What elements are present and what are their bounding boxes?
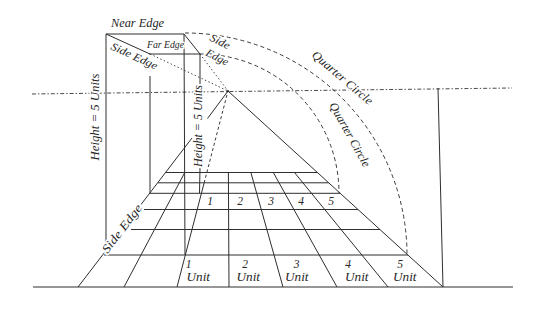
unit-cell: 3 Unit [285, 258, 309, 284]
inner-quarter-circle-label: Quarter Circle [326, 100, 373, 170]
far-row-number: 2 [237, 195, 243, 207]
unit-cell: 1 Unit [186, 258, 211, 284]
far-right-vertical-lower [200, 168, 201, 193]
horizon-line [32, 88, 512, 94]
unit-label: Unit [285, 270, 309, 284]
unit-label: Unit [345, 270, 369, 284]
unit-number: 5 [397, 258, 403, 270]
far-row-number: 4 [298, 195, 304, 207]
unit-label: Unit [237, 270, 261, 284]
unit-number: 1 [186, 258, 192, 270]
unit-number: 2 [242, 258, 248, 270]
far-row-number: 3 [267, 195, 274, 207]
side-edge-floor-line-upper [208, 91, 229, 119]
near-height-label: Height = 5 Units [88, 73, 102, 161]
far-row-number: 1 [207, 195, 213, 207]
unit-label: Unit [187, 270, 211, 284]
vanishing-point [227, 90, 229, 92]
near-edge-label: Near Edge [110, 16, 165, 30]
unit-cell: 5 Unit [393, 258, 417, 284]
unit-number: 3 [293, 258, 300, 270]
unit-cell: 4 Unit [345, 258, 369, 284]
floor-grid-column-line [228, 173, 229, 287]
side-edge-right-line [184, 34, 200, 54]
floor-grid-converging-lines [78, 91, 443, 287]
quarter-circles [185, 33, 407, 255]
far-edge-label: Far Edge [146, 38, 184, 50]
far-height-label: Height = 5 Units [191, 85, 205, 168]
far-row-numbers: 1 2 3 4 5 [207, 195, 334, 207]
unit-cell: 2 Unit [237, 258, 261, 284]
outer-quarter-circle [185, 33, 407, 255]
near-right-vertical [184, 34, 185, 255]
far-row-number: 5 [328, 195, 334, 207]
construction-lines [32, 88, 513, 287]
side-edge-floor-line-lower [78, 253, 105, 288]
perspective-diagram: Near Edge Far Edge Side Edge Side Edge Q… [0, 0, 538, 310]
unit-label: Unit [393, 270, 417, 284]
right-vertical-line [438, 88, 443, 287]
unit-number: 4 [345, 258, 351, 270]
floor-grid-column-line-dashed [204, 91, 228, 183]
